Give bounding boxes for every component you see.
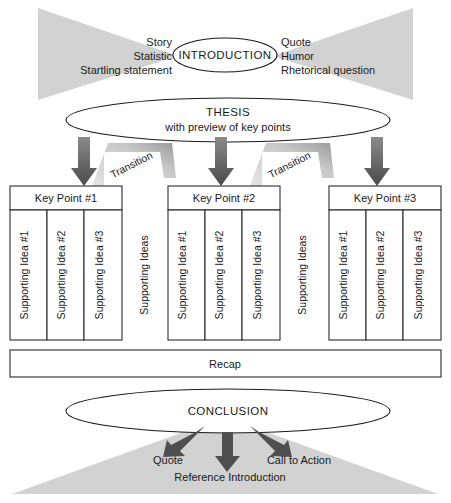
transition-label-1: Transition [108, 149, 154, 181]
intro-right-option-2: Rhetorical question [281, 64, 375, 76]
between-supporting-ideas-1: Supporting Ideas [138, 235, 150, 314]
supporting-ideas-between-label-2: Supporting Ideas [296, 235, 308, 314]
thesis-label-line1: THESIS [206, 106, 250, 118]
transition-label-2: Transition [266, 149, 312, 181]
intro-right-option-0: Quote [281, 36, 311, 48]
supporting-idea-label-3-3: Supporting Idea #3 [412, 230, 424, 319]
key-point-header-label-1: Key Point #1 [35, 192, 97, 204]
introduction-node: INTRODUCTION [173, 38, 277, 72]
recap-block[interactable]: Recap [10, 350, 441, 377]
transition-arrow-2: Transition [250, 143, 334, 186]
key-point-block-3[interactable]: Key Point #3 Supporting Idea #1 Supporti… [329, 186, 441, 340]
key-point-block-2[interactable]: Key Point #2 Supporting Idea #1 Supporti… [168, 186, 280, 340]
intro-right-option-1: Humor [281, 50, 314, 62]
recap-label: Recap [209, 358, 241, 370]
thesis-to-keypoint-arrow-1 [71, 137, 97, 186]
conclusion-node: CONCLUSION [66, 389, 390, 433]
supporting-idea-label-2-2: Supporting Idea #2 [213, 230, 225, 319]
supporting-idea-label-2-3: Supporting Idea #3 [251, 230, 263, 319]
thesis-label-line2: with preview of key points [164, 121, 291, 133]
intro-left-option-1: Statistic [133, 50, 172, 62]
supporting-idea-label-1-3: Supporting Idea #3 [93, 230, 105, 319]
intro-left-option-0: Story [146, 36, 172, 48]
key-point-block-1[interactable]: Key Point #1 Supporting Idea #1 Supporti… [10, 186, 122, 340]
supporting-idea-label-3-2: Supporting Idea #2 [374, 230, 386, 319]
key-point-header-label-3: Key Point #3 [354, 192, 416, 204]
conclusion-output-2: Call to Action [267, 454, 331, 466]
supporting-idea-label-1-2: Supporting Idea #2 [55, 230, 67, 319]
supporting-idea-label-2-1: Supporting Idea #1 [176, 230, 188, 319]
supporting-ideas-between-label-1: Supporting Ideas [138, 235, 150, 314]
speech-outline-diagram: INTRODUCTION Story Statistic Startling s… [0, 0, 451, 503]
conclusion-output-0: Quote [153, 454, 183, 466]
intro-left-option-2: Startling statement [80, 64, 172, 76]
thesis-to-keypoint-arrow-2 [208, 137, 234, 186]
supporting-idea-label-3-1: Supporting Idea #1 [337, 230, 349, 319]
conclusion-label: CONCLUSION [188, 405, 269, 417]
supporting-idea-label-1-1: Supporting Idea #1 [18, 230, 30, 319]
key-point-header-label-2: Key Point #2 [193, 192, 255, 204]
introduction-label: INTRODUCTION [179, 49, 272, 61]
between-supporting-ideas-2: Supporting Ideas [296, 235, 308, 314]
thesis-to-keypoint-arrow-3 [364, 137, 390, 186]
conclusion-output-1: Reference Introduction [174, 471, 285, 483]
transition-arrow-1: Transition [92, 143, 176, 186]
thesis-node: THESIS with preview of key points [66, 98, 390, 142]
